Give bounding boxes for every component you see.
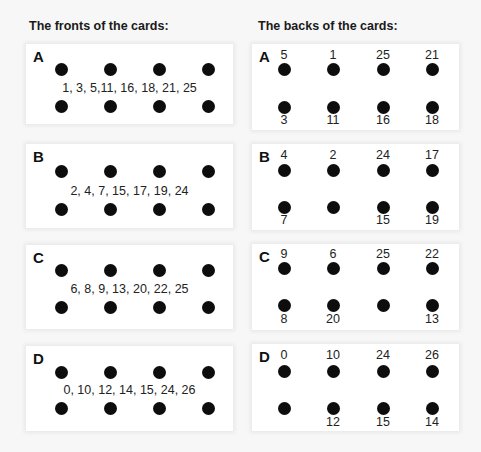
card-numbers: 6, 8, 9, 13, 20, 22, 25 [26, 282, 233, 296]
bottom-number: 12 [318, 415, 348, 429]
hole-dot [327, 299, 340, 312]
hole-dot [377, 365, 390, 378]
hole-dot [104, 402, 117, 415]
hole-dot [327, 402, 340, 415]
hole-dot [377, 402, 390, 415]
hole-dot [327, 164, 340, 177]
top-number: 4 [269, 148, 299, 162]
card-numbers: 0, 10, 12, 14, 15, 24, 26 [26, 383, 233, 397]
hole-dot [377, 164, 390, 177]
hole-dot [377, 299, 390, 312]
hole-dot [202, 203, 215, 216]
hole-dot [202, 100, 215, 113]
fronts-heading: The fronts of the cards: [29, 19, 169, 33]
hole-dot [104, 203, 117, 216]
hole-dot [55, 264, 68, 277]
hole-dot [104, 366, 117, 379]
hole-dot [426, 164, 439, 177]
top-number: 24 [368, 148, 398, 162]
hole-dot [426, 262, 439, 275]
front-card-c: C 6, 8, 9, 13, 20, 22, 25 [26, 245, 233, 329]
bottom-number: 15 [368, 213, 398, 227]
bottom-number: 8 [269, 312, 299, 326]
card-numbers: 2, 4, 7, 15, 17, 19, 24 [26, 184, 233, 198]
hole-dot [377, 262, 390, 275]
backs-heading: The backs of the cards: [258, 19, 398, 33]
hole-dot [153, 402, 166, 415]
hole-dot [278, 164, 291, 177]
bottom-number: 14 [417, 415, 447, 429]
hole-dot [202, 165, 215, 178]
top-number: 21 [417, 48, 447, 62]
hole-dot [327, 63, 340, 76]
bottom-number: 19 [417, 213, 447, 227]
card-letter: B [33, 148, 44, 165]
top-number: 1 [318, 48, 348, 62]
hole-dot [55, 63, 68, 76]
top-number: 6 [318, 247, 348, 261]
hole-dot [426, 299, 439, 312]
hole-dot [104, 100, 117, 113]
hole-dot [202, 63, 215, 76]
hole-dot [55, 301, 68, 314]
hole-dot [278, 365, 291, 378]
hole-dot [153, 203, 166, 216]
hole-dot [377, 63, 390, 76]
hole-dot [153, 264, 166, 277]
card-letter: D [33, 350, 44, 367]
top-number: 26 [417, 348, 447, 362]
back-card-a: A 5 1 25 21 3 11 16 18 [252, 44, 459, 130]
top-number: 24 [368, 348, 398, 362]
top-number: 25 [368, 247, 398, 261]
top-number: 22 [417, 247, 447, 261]
hole-dot [278, 402, 291, 415]
front-card-b: B 2, 4, 7, 15, 17, 19, 24 [26, 144, 233, 228]
hole-dot [202, 264, 215, 277]
hole-dot [426, 365, 439, 378]
card-letter: A [33, 48, 44, 65]
hole-dot [153, 366, 166, 379]
hole-dot [104, 301, 117, 314]
hole-dot [55, 100, 68, 113]
top-number: 9 [269, 247, 299, 261]
back-card-d: D 0 10 24 26 12 15 14 [252, 344, 459, 431]
hole-dot [104, 165, 117, 178]
hole-dot [55, 165, 68, 178]
bottom-number: 18 [417, 113, 447, 127]
hole-dot [202, 366, 215, 379]
hole-dot [426, 63, 439, 76]
hole-dot [327, 262, 340, 275]
bottom-number: 3 [269, 113, 299, 127]
top-number: 10 [318, 348, 348, 362]
hole-dot [153, 100, 166, 113]
bottom-number: 13 [417, 312, 447, 326]
bottom-number: 7 [269, 213, 299, 227]
hole-dot [202, 402, 215, 415]
top-number: 0 [269, 348, 299, 362]
bottom-number: 11 [318, 113, 348, 127]
top-number: 17 [417, 148, 447, 162]
top-number: 25 [368, 48, 398, 62]
hole-dot [55, 402, 68, 415]
top-number: 2 [318, 148, 348, 162]
hole-dot [327, 201, 340, 214]
bottom-number: 15 [368, 415, 398, 429]
card-letter: C [33, 249, 44, 266]
hole-dot [55, 366, 68, 379]
hole-dot [55, 203, 68, 216]
back-card-b: B 4 2 24 17 7 15 19 [252, 144, 459, 230]
hole-dot [104, 63, 117, 76]
hole-dot [202, 301, 215, 314]
hole-dot [153, 63, 166, 76]
hole-dot [426, 402, 439, 415]
hole-dot [327, 365, 340, 378]
hole-dot [278, 262, 291, 275]
hole-dot [153, 165, 166, 178]
bottom-number: 16 [368, 113, 398, 127]
front-card-a: A 1, 3, 5,11, 16, 18, 21, 25 [26, 44, 233, 124]
hole-dot [153, 301, 166, 314]
hole-dot [278, 63, 291, 76]
top-number: 5 [269, 48, 299, 62]
card-numbers: 1, 3, 5,11, 16, 18, 21, 25 [26, 81, 233, 95]
bottom-number: 20 [318, 312, 348, 326]
